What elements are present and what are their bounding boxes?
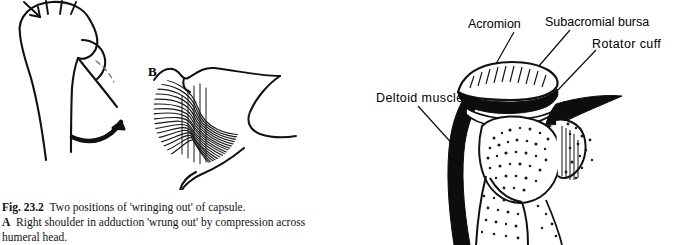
panel-b-wrung-capsule-diagram [140,50,300,190]
figure-caption: Fig. 23.2 Two positions of 'wringing out… [2,200,342,245]
caption-line-2: A Right shoulder in adduction 'wrung out… [2,215,342,230]
panel-a-drawing [0,0,150,190]
label-subacromial-bursa: Subacromial bursa [545,16,649,29]
label-deltoid-muscle: Deltoid muscle [376,92,464,105]
label-acromion: Acromion [468,18,521,31]
acromion-shape [458,62,558,114]
capsule-fibres [143,79,256,179]
caption-line-1: Fig. 23.2 Two positions of 'wringing out… [2,200,342,215]
figure-container: B [0,0,684,245]
figure-number: Fig. 23.2 [2,201,44,213]
caption-part-a-letter: A [2,216,10,228]
caption-part-a-text: Right shoulder in adduction 'wrung out' … [16,216,305,228]
adduction-motion-arrow [72,122,124,141]
panel-b-letter: B [148,65,157,78]
leader-rotator-cuff [556,50,596,92]
humeral-head-and-shaft [476,116,593,245]
caption-title: Two positions of 'wringing out' of capsu… [50,201,246,213]
panel-b-drawing [140,50,300,190]
panel-a-humeral-head-diagram [0,0,150,190]
caption-line-3: humeral head. [2,230,342,245]
label-rotator-cuff: Rotator cuff [592,38,661,51]
